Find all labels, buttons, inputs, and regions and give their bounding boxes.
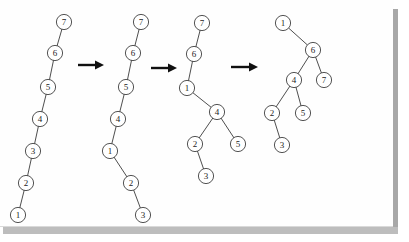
tree-edge-7-6 <box>196 30 200 46</box>
tree-edge-6-5 <box>50 60 54 79</box>
tree-edge-4-1 <box>112 126 116 143</box>
tree-edge-4-3 <box>35 126 39 143</box>
tree-node-1[interactable]: 1 <box>275 15 290 30</box>
node-label: 3 <box>204 171 209 181</box>
node-label: 4 <box>38 114 43 124</box>
tree-node-6[interactable]: 6 <box>305 42 320 57</box>
tree-node-3[interactable]: 3 <box>274 137 289 152</box>
node-label: 3 <box>31 146 36 156</box>
tree-edge-5-4 <box>42 94 46 111</box>
tree-node-4[interactable]: 4 <box>209 104 224 119</box>
nodes-layer: 7654321765412376142531647253 <box>10 14 331 222</box>
node-label: 7 <box>62 17 67 27</box>
node-label: 2 <box>270 108 275 118</box>
tree-1-nodes: 7654321 <box>10 14 71 222</box>
tree-edge-6-1 <box>189 61 193 80</box>
node-label: 2 <box>129 178 134 188</box>
tree-node-1[interactable]: 1 <box>10 207 25 222</box>
arrow-3-head-icon <box>249 62 258 71</box>
arrows-layer <box>78 60 258 72</box>
node-label: 6 <box>192 49 197 59</box>
node-label: 6 <box>131 48 136 58</box>
tree-node-7[interactable]: 7 <box>194 15 209 30</box>
arrow-2 <box>151 63 177 72</box>
node-label: 6 <box>311 45 316 55</box>
tree-node-3[interactable]: 3 <box>135 207 150 222</box>
tree-node-5[interactable]: 5 <box>230 136 245 151</box>
tree-node-6[interactable]: 6 <box>125 45 140 60</box>
node-label: 5 <box>124 82 129 92</box>
tree-edge-5-4 <box>120 94 124 111</box>
tree-edge-2-3 <box>274 120 279 138</box>
tree-node-5[interactable]: 5 <box>40 79 55 94</box>
tree-edge-6-7 <box>316 57 322 73</box>
tree-node-7[interactable]: 7 <box>56 14 71 29</box>
node-label: 1 <box>16 210 21 220</box>
node-label: 4 <box>292 75 297 85</box>
node-label: 4 <box>215 107 220 117</box>
tree-edge-1-2 <box>114 157 127 176</box>
node-label: 1 <box>281 18 286 28</box>
tree-3-nodes: 7614253 <box>179 15 245 183</box>
tree-edge-4-2 <box>276 86 290 106</box>
tree-2-nodes: 7654123 <box>102 14 150 222</box>
node-label: 7 <box>139 17 144 27</box>
tree-edge-2-3 <box>134 190 141 208</box>
tree-edge-6-4 <box>298 56 309 73</box>
node-label: 7 <box>200 18 205 28</box>
arrow-2-head-icon <box>168 63 177 72</box>
node-label: 2 <box>193 139 198 149</box>
node-label: 6 <box>53 48 58 58</box>
node-label: 7 <box>322 75 327 85</box>
tree-edge-4-5 <box>221 118 234 137</box>
arrow-1 <box>78 60 104 69</box>
tree-node-7[interactable]: 7 <box>316 72 331 87</box>
tree-node-3[interactable]: 3 <box>198 168 213 183</box>
tree-node-4[interactable]: 4 <box>110 111 125 126</box>
tree-node-2[interactable]: 2 <box>264 105 279 120</box>
node-label: 1 <box>108 146 113 156</box>
node-label: 2 <box>24 178 29 188</box>
tree-edge-2-3 <box>197 151 203 169</box>
arrow-3 <box>231 62 258 71</box>
node-label: 1 <box>185 83 190 93</box>
tree-node-2[interactable]: 2 <box>123 175 138 190</box>
node-label: 4 <box>116 114 121 124</box>
tree-node-1[interactable]: 1 <box>179 80 194 95</box>
tree-edge-1-6 <box>289 28 308 45</box>
tree-node-6[interactable]: 6 <box>186 46 201 61</box>
tree-node-1[interactable]: 1 <box>102 143 117 158</box>
tree-node-4[interactable]: 4 <box>32 111 47 126</box>
tree-node-4[interactable]: 4 <box>286 72 301 87</box>
tree-edge-4-5 <box>296 87 301 105</box>
tree-node-3[interactable]: 3 <box>25 143 40 158</box>
tree-edge-3-2 <box>28 158 32 175</box>
tree-edge-6-5 <box>128 60 132 79</box>
figure-root: 7654321765412376142531647253 <box>0 0 409 242</box>
node-label: 5 <box>301 108 306 118</box>
tree-edge-2-1 <box>20 190 24 207</box>
tree-edge-7-6 <box>57 29 62 45</box>
tree-edge-7-6 <box>135 29 139 45</box>
arrow-1-head-icon <box>95 60 104 69</box>
tree-node-5[interactable]: 5 <box>295 105 310 120</box>
tree-edge-1-4 <box>193 93 211 108</box>
tree-node-5[interactable]: 5 <box>118 79 133 94</box>
node-label: 5 <box>46 82 51 92</box>
node-label: 5 <box>236 139 241 149</box>
node-label: 3 <box>280 140 285 150</box>
tree-node-2[interactable]: 2 <box>187 136 202 151</box>
tree-rotation-diagram: 7654321765412376142531647253 <box>0 0 409 242</box>
tree-node-6[interactable]: 6 <box>47 45 62 60</box>
tree-node-7[interactable]: 7 <box>133 14 148 29</box>
tree-edge-4-2 <box>199 118 212 137</box>
node-label: 3 <box>141 210 146 220</box>
tree-node-2[interactable]: 2 <box>18 175 33 190</box>
